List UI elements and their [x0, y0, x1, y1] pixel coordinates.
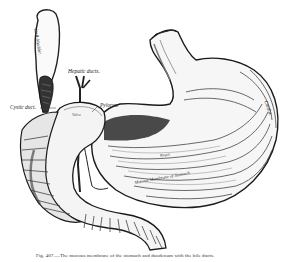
gall-bladder — [35, 10, 59, 112]
anatomy-illustration — [0, 0, 297, 262]
label-hepatic-ducts: Hepatic ducts. — [68, 68, 100, 74]
label-pylorus: Pylorus. — [100, 102, 119, 108]
label-cystic-duct: Cystic duct. — [10, 104, 36, 110]
stomach — [92, 30, 278, 208]
label-valve: Valve — [72, 112, 81, 117]
figure-caption: Fig. 407.—The mucous membrane of the sto… — [36, 253, 214, 258]
